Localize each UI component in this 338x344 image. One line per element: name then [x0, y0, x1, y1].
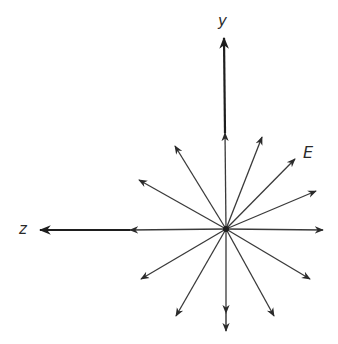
- field-vectors-group: [130, 133, 323, 316]
- field-vector-up: [225, 133, 226, 229]
- field-vector-up-left-shallow: [139, 180, 226, 229]
- field-vectors-canvas: [0, 0, 338, 344]
- field-vector-down-left-steep: [176, 229, 226, 316]
- field-vector-down-left-shallow: [141, 229, 226, 279]
- field-vector-up-right-mid: [226, 159, 295, 229]
- field-vector-up-right-shallow: [226, 191, 316, 229]
- field-label-E: E: [303, 145, 313, 161]
- field-vector-left: [130, 229, 226, 230]
- field-vector-right: [226, 229, 323, 230]
- field-vector-down-right-steep: [226, 229, 274, 316]
- field-vector-up-right-steep: [226, 137, 262, 229]
- radial-field-diagram: y z E: [0, 0, 338, 344]
- z-axis-label: z: [19, 222, 27, 237]
- field-vector-down-right-shallow: [226, 229, 310, 279]
- origin-point: [223, 226, 229, 232]
- y-axis-label: y: [218, 14, 227, 29]
- field-vector-up-left-steep: [175, 146, 226, 229]
- y-axis-arrow: [224, 38, 225, 133]
